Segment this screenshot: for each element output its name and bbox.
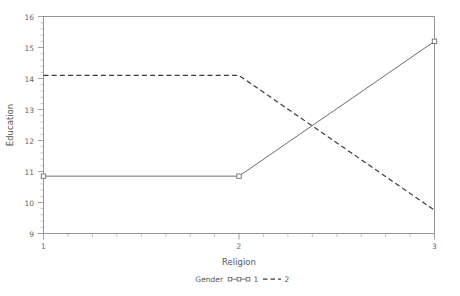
series-1-markers [41, 39, 436, 178]
x-tick-label: 3 [432, 242, 437, 251]
legend-label-series-1: 1 [254, 275, 259, 284]
data-point-marker [41, 174, 45, 178]
x-tick-label: 2 [237, 242, 242, 251]
legend-label-series-2: 2 [285, 275, 290, 284]
y-tick-label: 14 [24, 75, 34, 84]
y-tick-label: 13 [24, 106, 34, 115]
y-axis-major-ticks [38, 17, 44, 234]
interaction-plot: 16 15 14 13 12 11 10 9 Education [0, 0, 460, 296]
y-tick-label: 16 [24, 13, 34, 22]
y-axis-group: 16 15 14 13 12 11 10 9 [24, 13, 43, 239]
series-gender-1-solid [41, 39, 436, 178]
legend-swatch-series-1 [228, 277, 250, 281]
data-point-marker [432, 39, 436, 43]
y-tick-label: 9 [29, 230, 34, 239]
x-tick-label: 1 [41, 242, 46, 251]
legend-title: Gender [195, 275, 224, 284]
x-axis-group: 1 2 3 [41, 234, 437, 252]
y-tick-label: 12 [24, 137, 34, 146]
y-tick-label: 11 [24, 168, 34, 177]
chart-figure: 16 15 14 13 12 11 10 9 Education [0, 0, 460, 296]
y-tick-label: 15 [24, 44, 34, 53]
data-point-marker [237, 174, 241, 178]
legend: Gender 1 2 [195, 275, 289, 284]
series-gender-2-dashed [44, 75, 435, 210]
y-tick-label: 10 [24, 199, 34, 208]
x-axis-major-ticks [44, 234, 435, 240]
x-axis-title: Religion [222, 257, 256, 267]
plot-frame [44, 17, 435, 234]
y-axis-title: Education [5, 104, 15, 146]
